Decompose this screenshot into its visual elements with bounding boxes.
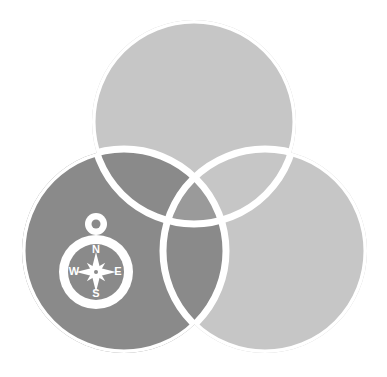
compass-label-west: W — [69, 265, 80, 277]
compass-label-south: S — [92, 287, 99, 299]
logo-artwork: Three overlapping circles logo with comp… — [0, 0, 387, 377]
compass-label-east: E — [114, 265, 121, 277]
logo-canvas: Three overlapping circles logo with comp… — [0, 0, 387, 377]
compass-label-north: N — [92, 243, 100, 255]
rose-hub-center — [94, 270, 98, 274]
compass-loop-hole — [92, 220, 101, 229]
